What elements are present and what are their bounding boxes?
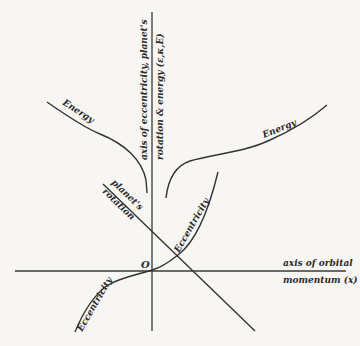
- energy-curve-left: [47, 102, 147, 193]
- eccentricity-curve-upper: [152, 172, 218, 270]
- vertical-axis-label-line2: rotation & energy (ε,κ,E): [155, 33, 166, 160]
- energy-label-left: Energy: [60, 97, 97, 126]
- eccentricity-label-lower: Eccentricity: [75, 275, 115, 334]
- horizontal-axis-label-line1: axis of orbital: [283, 258, 353, 268]
- energy-curve-right: [166, 105, 327, 198]
- orbital-momentum-diagram: axis of eccentricity, planet's rotation …: [0, 0, 360, 346]
- vertical-axis-label-line1: axis of eccentricity, planet's: [139, 19, 150, 160]
- eccentricity-label-upper: Eccentricity: [172, 196, 212, 255]
- origin-label: O: [141, 259, 150, 270]
- horizontal-axis-label-line2: momentum (x): [283, 275, 358, 285]
